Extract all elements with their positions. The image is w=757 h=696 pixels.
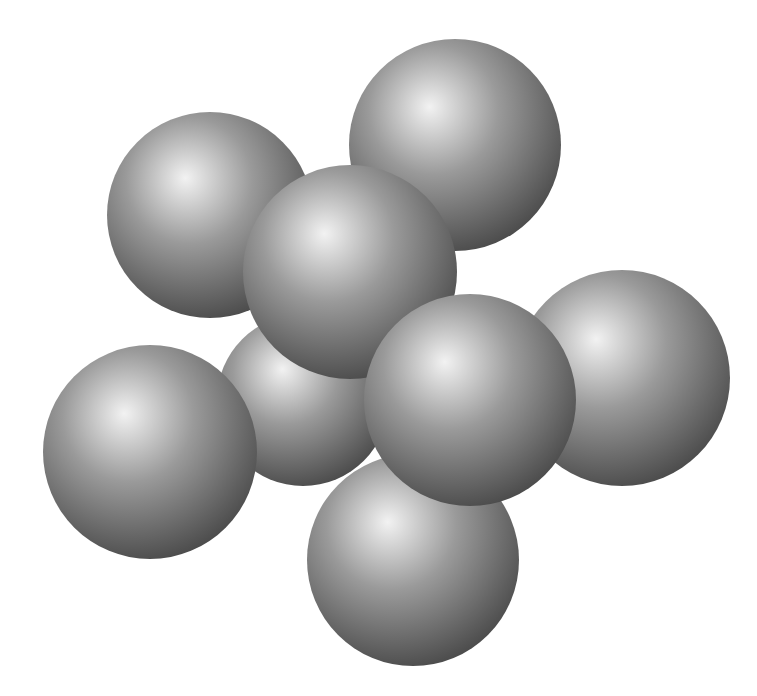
sphere-cluster-diagram xyxy=(0,0,757,696)
sphere-front-center xyxy=(364,294,576,506)
sphere-left xyxy=(43,345,257,559)
